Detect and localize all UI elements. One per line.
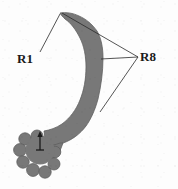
- blade-airfoil-shape: [44, 13, 103, 146]
- blade-diagram-figure: R1 R8: [0, 0, 178, 189]
- leader-line-r8-mid: [101, 57, 138, 59]
- blade-diagram-canvas: [0, 0, 178, 189]
- turbine-blade: [14, 13, 103, 179]
- annotation-label-r8: R8: [140, 50, 156, 63]
- leader-line-r8-trailing: [100, 57, 138, 112]
- annotation-label-r1: R1: [17, 52, 33, 65]
- leader-line-r1: [40, 14, 60, 52]
